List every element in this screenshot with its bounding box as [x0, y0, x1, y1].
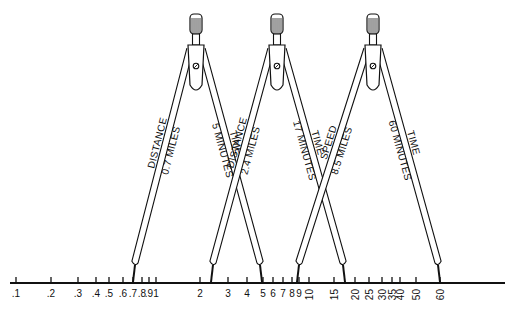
scale-tick-label: 4 [244, 288, 250, 299]
left-needle-point [133, 265, 135, 282]
scale-tick-label: 1 [153, 288, 159, 299]
scale-tick-label: 9 [296, 288, 302, 299]
scale-tick-label: 8 [289, 288, 295, 299]
knob-neck [370, 34, 377, 45]
knob-neck [274, 34, 281, 45]
log-scale: .1.2.3.4.5.6.7.8.91234567891015202530354… [10, 277, 505, 300]
knob-neck [193, 34, 200, 45]
scale-tick-label: .3 [74, 288, 83, 299]
scale-tick-label: 25 [364, 289, 375, 301]
scale-tick-label: 2 [197, 288, 203, 299]
scale-tick-label: 40 [395, 289, 406, 301]
scale-tick-label: .7 [129, 288, 138, 299]
scale-tick-label: 5 [260, 288, 266, 299]
scale-tick-label: 6 [270, 288, 276, 299]
scale-tick-label: 10 [304, 289, 315, 301]
scale-tick-label: 3 [225, 288, 231, 299]
scale-tick-label: .1 [12, 288, 21, 299]
right-needle-point [260, 265, 262, 282]
right-needle-point [343, 265, 345, 282]
scale-tick-label: .4 [92, 288, 101, 299]
scale-tick-label: .2 [47, 288, 56, 299]
scale-tick-label: .5 [105, 288, 114, 299]
scale-tick-label: 15 [329, 289, 340, 301]
scale-tick-label: 7 [280, 288, 286, 299]
right-needle-point [438, 265, 440, 282]
scale-tick-label: 50 [411, 289, 422, 301]
logarithmic-scale-diagram: .1.2.3.4.5.6.7.8.91234567891015202530354… [0, 0, 514, 315]
left-needle-point [211, 265, 213, 282]
scale-tick-label: 60 [435, 289, 446, 301]
scale-tick-label: 20 [350, 289, 361, 301]
scale-tick-label: .6 [119, 288, 128, 299]
